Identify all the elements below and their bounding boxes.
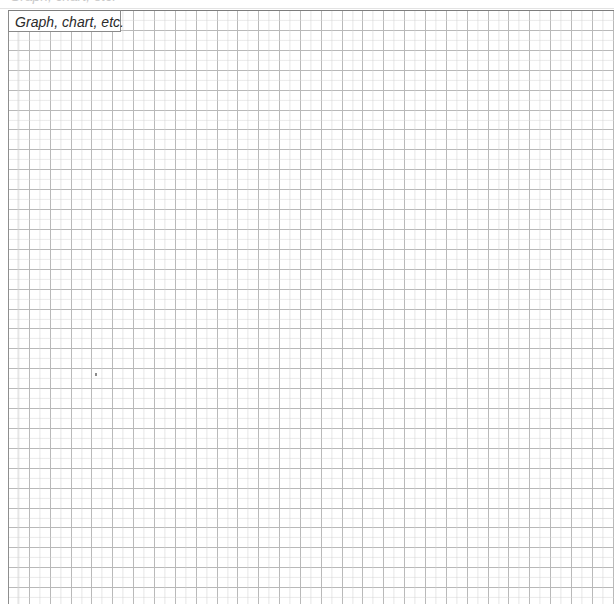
page-root: Graph, chart, etc. Graph, chart, etc. bbox=[0, 0, 614, 604]
clipped-row-above: Graph, chart, etc. bbox=[0, 0, 614, 9]
graph-paper-grid[interactable] bbox=[8, 10, 614, 604]
clipped-row-divider bbox=[0, 8, 614, 9]
clipped-row-ghost-text: Graph, chart, etc. bbox=[10, 0, 116, 4]
stray-mark bbox=[95, 373, 97, 376]
merged-placeholder-cell[interactable]: Graph, chart, etc. bbox=[8, 10, 121, 32]
merged-cell-label: Graph, chart, etc. bbox=[15, 13, 124, 31]
grid-left-border bbox=[8, 10, 9, 604]
grid-hairlines bbox=[8, 10, 614, 604]
